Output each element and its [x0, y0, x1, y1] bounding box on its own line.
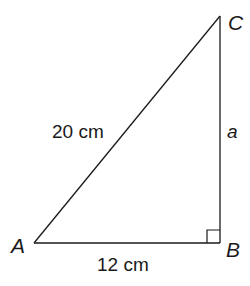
base-length-label: 12 cm	[97, 255, 149, 274]
hypotenuse-length-label: 20 cm	[52, 122, 104, 141]
vertex-label-b: B	[226, 239, 240, 260]
side-bc-variable-label: a	[227, 122, 238, 141]
right-angle-marker-icon	[207, 230, 220, 243]
vertex-label-c: C	[228, 12, 243, 33]
right-triangle-diagram	[0, 0, 250, 286]
vertex-label-a: A	[11, 235, 25, 256]
